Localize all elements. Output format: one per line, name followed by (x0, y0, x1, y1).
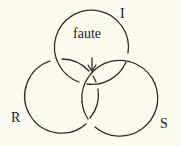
ring-s (82, 60, 155, 102)
ring-i-lower (87, 62, 126, 84)
ring-r-upper (62, 59, 89, 71)
annotation-faute: faute (73, 26, 101, 41)
label-i: I (120, 6, 125, 21)
label-r: R (11, 110, 21, 125)
ring-s-left (82, 102, 88, 119)
ring-r (25, 61, 86, 133)
ring-s-right (95, 84, 158, 136)
label-s: S (160, 116, 168, 131)
ring-r-right (90, 89, 98, 118)
knot-canvas: faute I R S (0, 0, 181, 146)
ring-r-dash (93, 76, 96, 82)
borromean-diagram: faute I R S (0, 0, 181, 146)
